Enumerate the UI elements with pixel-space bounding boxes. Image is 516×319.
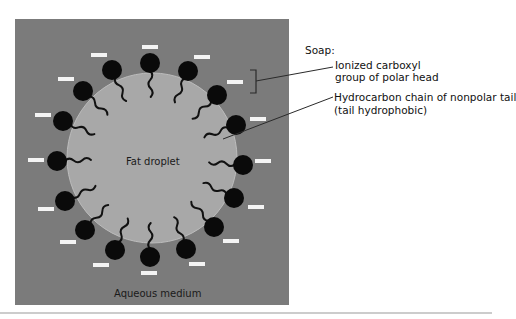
polar-head — [53, 111, 73, 131]
soap-legend-title: Soap: — [305, 44, 335, 56]
polar-head — [105, 240, 125, 260]
polar-head — [204, 217, 224, 237]
negative-charge-icon — [58, 77, 74, 81]
polar-head — [178, 61, 198, 81]
fat-droplet-label: Fat droplet — [126, 156, 180, 167]
negative-charge-icon — [93, 263, 109, 267]
polar-head — [226, 115, 246, 135]
negative-charge-icon — [60, 240, 76, 244]
negative-charge-icon — [255, 159, 271, 163]
negative-charge-icon — [28, 158, 44, 162]
negative-charge-icon — [141, 271, 157, 275]
polar-head — [140, 53, 160, 73]
polar-head — [55, 191, 75, 211]
negative-charge-icon — [189, 262, 205, 266]
polar-head — [140, 247, 160, 267]
polar-head-label-line1: Ionized carboxyl — [335, 59, 421, 71]
negative-charge-icon — [250, 117, 266, 121]
polar-head-label-line2: group of polar head — [335, 71, 439, 83]
negative-charge-icon — [35, 113, 51, 117]
polar-head — [224, 188, 244, 208]
negative-charge-icon — [223, 239, 239, 243]
negative-charge-icon — [91, 53, 107, 57]
tail-label-line2: (tail hydrophobic) — [334, 104, 427, 116]
polar-head — [102, 60, 122, 80]
polar-head — [176, 239, 196, 259]
polar-head — [73, 81, 93, 101]
negative-charge-icon — [142, 45, 158, 49]
negative-charge-icon — [38, 207, 54, 211]
negative-charge-icon — [194, 55, 210, 59]
tail-label-line1: Hydrocarbon chain of nonpolar tail — [334, 91, 516, 103]
polar-head — [47, 151, 67, 171]
negative-charge-icon — [248, 205, 264, 209]
negative-charge-icon — [227, 80, 243, 84]
polar-head — [233, 155, 253, 175]
polar-head — [75, 220, 95, 240]
polar-head — [207, 85, 227, 105]
aqueous-medium-label: Aqueous medium — [114, 288, 201, 299]
